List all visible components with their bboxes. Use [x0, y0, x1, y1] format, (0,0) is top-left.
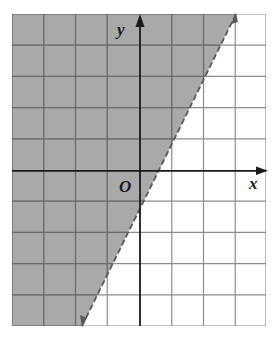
x-axis-label: x — [248, 174, 258, 193]
inequality-graph: y x O — [0, 0, 276, 340]
y-axis-label: y — [115, 20, 125, 39]
origin-label: O — [119, 177, 131, 196]
